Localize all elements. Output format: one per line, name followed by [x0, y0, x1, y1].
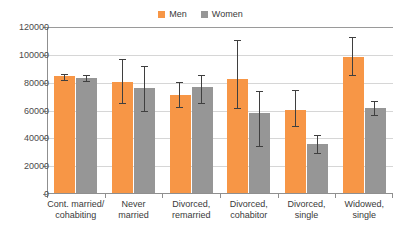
error-bar-cap-top: [234, 40, 241, 41]
legend-swatch-women: [201, 11, 208, 18]
error-bar-men-3: [227, 40, 248, 110]
legend-swatch-men: [158, 11, 165, 18]
y-axis-tick-label: 0: [44, 190, 49, 199]
error-bar-cap-top: [83, 75, 90, 76]
error-bar-cap-bottom: [314, 153, 321, 154]
y-axis-tick-label: 40000: [24, 134, 49, 143]
bar-women-0: [76, 78, 97, 194]
gridline: [47, 166, 393, 167]
bar-women-5: [365, 108, 386, 193]
error-bar-cap-bottom: [83, 81, 90, 82]
error-bar-cap-top: [198, 75, 205, 76]
error-bar-cap-bottom: [61, 80, 68, 81]
error-bar-stem: [237, 40, 238, 110]
error-bar-cap-top: [349, 37, 356, 38]
error-bar-women-4: [307, 135, 328, 154]
error-bar-stem: [295, 90, 296, 128]
error-bar-men-4: [285, 90, 306, 128]
error-bar-cap-top: [256, 91, 263, 92]
x-axis-label-3: Divorced, cohabitor: [220, 199, 278, 221]
gridline: [47, 138, 393, 139]
x-axis-label-0: Cont. married/ cohabiting: [47, 199, 105, 221]
error-bar-cap-bottom: [198, 103, 205, 104]
legend-entry-men: Men: [158, 10, 187, 19]
error-bar-women-3: [249, 91, 270, 147]
legend-label-men: Men: [169, 10, 187, 19]
bar-chart: Men Women 020000400006000080000100000120…: [0, 0, 401, 237]
error-bar-men-2: [170, 82, 191, 108]
x-axis-label-4: Divorced, single: [278, 199, 336, 221]
gridline: [47, 27, 393, 28]
y-axis-tick-label: 100000: [19, 50, 49, 59]
plot-area: [47, 27, 393, 194]
error-bar-stem: [201, 75, 202, 104]
x-axis-tick: [392, 194, 393, 198]
error-bar-stem: [122, 59, 123, 104]
y-axis-tick-label: 120000: [19, 23, 49, 32]
gridline: [47, 111, 393, 112]
error-bar-cap-bottom: [349, 75, 356, 76]
error-bar-men-0: [54, 74, 75, 81]
error-bar-stem: [317, 135, 318, 154]
error-bar-cap-bottom: [256, 146, 263, 147]
bar-men-2: [170, 95, 191, 193]
error-bar-men-5: [343, 37, 364, 76]
error-bar-cap-top: [119, 59, 126, 60]
error-bar-cap-bottom: [292, 126, 299, 127]
error-bar-women-1: [134, 66, 155, 112]
error-bar-cap-top: [61, 74, 68, 75]
error-bar-stem: [179, 82, 180, 108]
error-bar-cap-top: [292, 90, 299, 91]
bar-men-0: [54, 76, 75, 193]
error-bar-men-1: [112, 59, 133, 104]
gridline: [47, 55, 393, 56]
error-bar-women-2: [192, 75, 213, 104]
error-bar-cap-top: [141, 66, 148, 67]
error-bar-stem: [144, 66, 145, 112]
error-bar-stem: [352, 37, 353, 76]
x-axis-label-5: Widowed, single: [335, 199, 393, 221]
error-bar-stem: [259, 91, 260, 147]
error-bar-cap-bottom: [119, 103, 126, 104]
chart-legend: Men Women: [0, 6, 401, 22]
error-bar-women-5: [365, 101, 386, 116]
legend-entry-women: Women: [201, 10, 243, 19]
x-axis-tick: [220, 194, 221, 198]
error-bar-cap-top: [314, 135, 321, 136]
x-axis-tick: [105, 194, 106, 198]
x-axis-label-2: Divorced, remarried: [162, 199, 220, 221]
gridline: [47, 83, 393, 84]
error-bar-stem: [374, 101, 375, 116]
x-axis-tick: [335, 194, 336, 198]
x-axis-label-1: Never married: [105, 199, 163, 221]
error-bar-cap-bottom: [234, 108, 241, 109]
legend-label-women: Women: [212, 10, 243, 19]
y-axis-tick-label: 60000: [24, 106, 49, 115]
error-bar-cap-top: [371, 101, 378, 102]
bar-men-5: [343, 57, 364, 193]
error-bar-cap-bottom: [371, 115, 378, 116]
x-axis-tick: [278, 194, 279, 198]
x-axis-tick: [162, 194, 163, 198]
error-bar-cap-bottom: [141, 111, 148, 112]
error-bar-cap-top: [176, 82, 183, 83]
error-bar-cap-bottom: [176, 107, 183, 108]
y-axis-tick-label: 20000: [24, 162, 49, 171]
y-axis-tick-label: 80000: [24, 78, 49, 87]
error-bar-women-0: [76, 75, 97, 82]
